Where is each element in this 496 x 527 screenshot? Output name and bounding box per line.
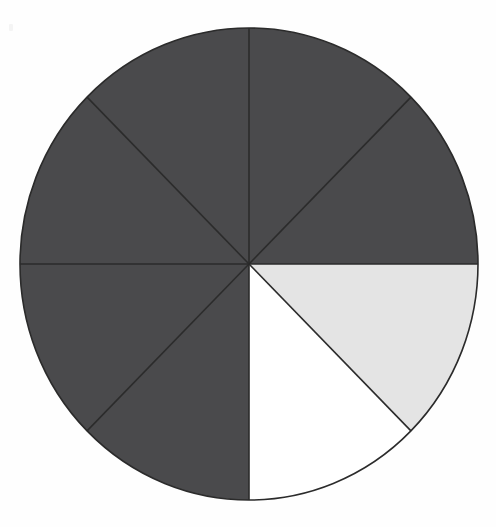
figure-canvas: Fraction circle divided into eighths — [0, 0, 496, 527]
fraction-circle-diagram: Fraction circle divided into eighths — [0, 0, 496, 527]
pie-divider-group — [20, 28, 478, 500]
scan-speck — [9, 24, 13, 31]
